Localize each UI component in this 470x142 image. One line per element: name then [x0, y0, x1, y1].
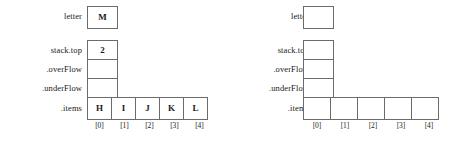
items-cell-1: I	[111, 97, 136, 120]
items-cell-4	[411, 97, 439, 120]
letter-value-box	[303, 6, 334, 29]
index-label-2: [2]	[137, 121, 162, 131]
stack-diagram-panel-filled: letter stack.top .overFlow .underFlow .i…	[0, 0, 235, 142]
over-flow-value-box	[303, 59, 334, 79]
items-cell-2	[357, 97, 385, 120]
index-label-0: [0]	[303, 121, 331, 131]
under-flow-value-box	[87, 78, 118, 98]
index-label-3: [3]	[387, 121, 415, 131]
items-cell-1	[330, 97, 358, 120]
label-items: .items	[0, 103, 82, 113]
under-flow-value-box	[303, 78, 334, 98]
label-letter: letter	[227, 11, 309, 21]
items-cell-4: L	[183, 97, 208, 120]
label-over-flow: .overFlow	[227, 64, 309, 74]
items-cell-3	[384, 97, 412, 120]
items-cell-3: K	[159, 97, 184, 120]
items-array-row: H I J K L	[87, 97, 208, 120]
index-label-1: [1]	[112, 121, 137, 131]
items-array-row	[303, 97, 439, 120]
over-flow-value-box	[87, 59, 118, 79]
items-cell-0: H	[87, 97, 112, 120]
stack-top-value-box	[303, 40, 334, 60]
stack-diagram-panel-empty: letter stack.top .overFlow .underFlow .i…	[235, 0, 470, 142]
stack-top-value-box: 2	[87, 40, 118, 60]
letter-value-box: M	[87, 6, 118, 29]
items-index-row: [0] [1] [2] [3] [4]	[87, 121, 212, 131]
index-label-3: [3]	[162, 121, 187, 131]
label-stack-top: stack.top	[227, 45, 309, 55]
index-label-1: [1]	[331, 121, 359, 131]
label-under-flow: .underFlow	[0, 83, 82, 93]
index-label-0: [0]	[87, 121, 112, 131]
label-under-flow: .underFlow	[227, 83, 309, 93]
label-letter: letter	[0, 11, 82, 21]
index-label-4: [4]	[187, 121, 212, 131]
label-stack-top: stack.top	[0, 45, 82, 55]
label-items: .items	[227, 103, 309, 113]
items-cell-0	[303, 97, 331, 120]
items-cell-2: J	[135, 97, 160, 120]
index-label-2: [2]	[359, 121, 387, 131]
items-index-row: [0] [1] [2] [3] [4]	[303, 121, 443, 131]
index-label-4: [4]	[415, 121, 443, 131]
label-over-flow: .overFlow	[0, 64, 82, 74]
